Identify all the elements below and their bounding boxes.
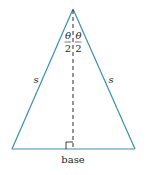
right-theta-numerator: θ xyxy=(75,30,81,41)
left-side-label: s xyxy=(33,74,38,85)
right-theta-denominator: 2 xyxy=(75,43,81,54)
left-theta-denominator: 2 xyxy=(65,43,71,54)
right-side-label: s xyxy=(108,74,113,85)
right-angle-marker xyxy=(66,142,73,149)
right-side xyxy=(73,9,135,149)
left-theta-numerator: θ xyxy=(65,30,71,41)
base-label: base xyxy=(61,154,84,165)
isosceles-triangle-diagram: θ 2 θ 2 s s base xyxy=(0,0,150,175)
left-side xyxy=(12,9,73,149)
